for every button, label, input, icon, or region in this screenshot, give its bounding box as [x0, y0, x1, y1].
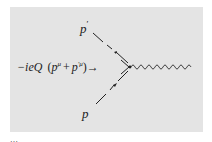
vertex-factor: −ieQ (pμ+p′μ)→: [17, 60, 99, 74]
incoming-scalar-line: [96, 71, 128, 104]
photon-line: [131, 65, 191, 69]
feynman-diagram: p′ p −ieQ (pμ+p′μ)→ …: [0, 0, 212, 142]
caption-fragment: …: [10, 135, 18, 142]
incoming-momentum-label: p: [81, 106, 89, 121]
outgoing-momentum-label: p′: [79, 19, 89, 36]
outgoing-scalar-line: [93, 33, 128, 63]
arrow-icon: [113, 83, 117, 87]
